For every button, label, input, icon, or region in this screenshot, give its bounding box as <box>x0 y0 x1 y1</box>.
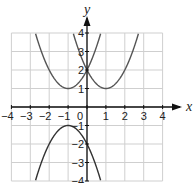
graph: −4−3−2−112340−4−3−2−11234 x y <box>0 0 196 183</box>
x-tick-label: 3 <box>141 110 147 122</box>
x-axis-arrow-icon <box>172 104 182 111</box>
y-axis-label: y <box>82 2 91 17</box>
x-tick-label: 4 <box>160 110 166 122</box>
y-tick-label: 2 <box>78 64 84 76</box>
y-tick-label: −4 <box>71 175 84 183</box>
y-axis-arrow-icon <box>84 16 91 26</box>
x-tick-label: 2 <box>122 110 128 122</box>
y-tick-label: −3 <box>71 157 84 169</box>
y-tick-label: 3 <box>78 46 84 58</box>
y-tick-label: 1 <box>78 83 84 95</box>
tick-labels: −4−3−2−112340−4−3−2−11234 <box>1 27 166 183</box>
x-axis-label: x <box>185 99 193 114</box>
x-tick-label: −1 <box>58 110 71 122</box>
y-tick-label: −2 <box>71 138 84 150</box>
x-tick-label: −4 <box>1 110 14 122</box>
x-tick-label: −3 <box>20 110 33 122</box>
axes <box>11 16 182 181</box>
y-tick-label: 4 <box>78 27 84 39</box>
x-tick-label: 1 <box>103 110 109 122</box>
x-tick-label: −2 <box>39 110 52 122</box>
y-tick-label: −1 <box>71 120 84 132</box>
